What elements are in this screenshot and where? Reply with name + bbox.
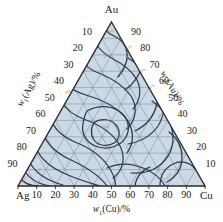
- contour-label: 50%: [101, 124, 109, 129]
- ternary-diagram-figure: 10% 15% 20% 25% 30% 35% 40% 45% 50% 55% …: [0, 0, 223, 222]
- contour-label: 60%: [129, 162, 137, 167]
- ternary-diagram-svg: 10% 15% 20% 25% 30% 35% 40% 45% 50% 55% …: [0, 0, 223, 222]
- contour-label: 55%: [102, 144, 110, 149]
